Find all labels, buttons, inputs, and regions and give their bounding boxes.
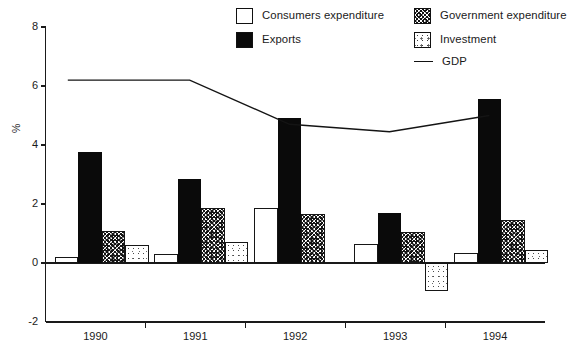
- y-axis-title: %: [10, 124, 22, 133]
- y-tick-mark: [41, 144, 46, 145]
- y-tick-label: 2: [14, 197, 38, 209]
- bar-consumers-expenditure-1993: [354, 244, 378, 263]
- bar-investment-1991: [225, 242, 249, 263]
- y-tick-label: 0: [14, 256, 38, 268]
- y-tick-mark: [41, 203, 46, 204]
- x-tick-mark: [445, 322, 446, 328]
- chart-figure: Consumers expenditure Government expendi…: [0, 0, 577, 356]
- bar-exports-1994: [478, 99, 502, 263]
- y-tick-label: 4: [14, 138, 38, 150]
- y-tick-mark: [41, 26, 46, 27]
- y-tick-label: 6: [14, 79, 38, 91]
- y-tick-mark: [41, 262, 46, 263]
- y-tick-label: 8: [14, 20, 38, 32]
- x-tick-label: 1994: [455, 330, 535, 342]
- bar-investment-1994: [525, 250, 549, 263]
- bar-consumers-expenditure-1991: [154, 254, 178, 263]
- x-tick-mark: [345, 322, 346, 328]
- bar-government-expenditure-1991: [201, 208, 225, 263]
- y-tick-mark: [41, 85, 46, 86]
- bar-exports-1993: [378, 213, 402, 263]
- bar-exports-1990: [78, 152, 102, 263]
- x-tick-mark: [145, 322, 146, 328]
- x-tick-mark: [245, 322, 246, 328]
- bar-consumers-expenditure-1990: [55, 257, 79, 263]
- x-tick-label: 1990: [55, 330, 135, 342]
- x-axis-line: [46, 321, 546, 322]
- bar-exports-1992: [278, 118, 302, 263]
- y-axis-line: [45, 27, 46, 322]
- plot-area: % 86420-2 19901991199219931994: [0, 0, 577, 356]
- bar-government-expenditure-1990: [102, 231, 126, 263]
- bar-consumers-expenditure-1994: [454, 253, 478, 263]
- y-tick-label: -2: [14, 315, 38, 327]
- bar-investment-1990: [125, 245, 149, 263]
- bar-consumers-expenditure-1992: [254, 208, 278, 263]
- x-tick-label: 1993: [355, 330, 435, 342]
- x-tick-label: 1992: [255, 330, 335, 342]
- bar-government-expenditure-1994: [501, 220, 525, 263]
- bar-investment-1993: [425, 263, 449, 291]
- bar-government-expenditure-1992: [301, 214, 325, 263]
- x-tick-label: 1991: [155, 330, 235, 342]
- bar-government-expenditure-1993: [401, 232, 425, 263]
- bar-exports-1991: [178, 179, 202, 263]
